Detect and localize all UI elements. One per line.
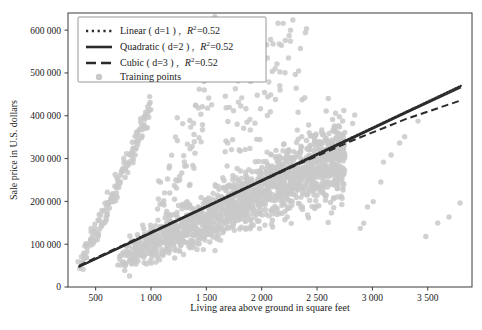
scatter-point — [191, 221, 196, 226]
scatter-point — [388, 152, 393, 157]
y-axis-title: Sale price in U.S. dollars — [8, 100, 19, 200]
scatter-point — [259, 170, 264, 175]
scatter-point — [297, 184, 302, 189]
scatter-point — [298, 148, 303, 153]
scatter-point — [378, 179, 383, 184]
scatter-point — [252, 120, 257, 125]
scatter-point — [331, 196, 336, 201]
scatter-point — [323, 169, 328, 174]
scatter-point — [203, 229, 208, 234]
scatter-point — [281, 142, 286, 147]
legend-r-squared-symbol: R — [184, 57, 191, 68]
scatter-point — [272, 66, 277, 71]
scatter-point — [238, 192, 243, 197]
scatter-point — [147, 94, 152, 99]
legend-r-squared-symbol: R — [199, 41, 206, 52]
scatter-point — [208, 229, 213, 234]
scatter-point — [295, 110, 300, 115]
scatter-point — [274, 61, 279, 66]
scatter-point — [312, 206, 317, 211]
scatter-point — [330, 117, 335, 122]
scatter-point — [257, 137, 262, 142]
scatter-point — [274, 176, 279, 181]
scatter-point — [268, 37, 273, 42]
legend-r-squared-value: =0.52 — [197, 25, 220, 36]
scatter-point — [154, 233, 159, 238]
scatter-point — [183, 222, 188, 227]
scatter-point — [257, 226, 262, 231]
scatter-point — [342, 151, 347, 156]
scatter-point — [285, 149, 290, 154]
scatter-point — [381, 159, 386, 164]
scatter-point — [129, 260, 134, 265]
scatter-point — [242, 147, 247, 152]
scatter-point — [210, 191, 215, 196]
scatter-point — [169, 152, 174, 157]
scatter-point — [189, 243, 194, 248]
scatter-point — [198, 195, 203, 200]
scatter-point — [305, 212, 310, 217]
scatter-point — [185, 141, 190, 146]
scatter-point — [268, 92, 273, 97]
scatter-point — [262, 90, 267, 95]
scatter-point — [273, 148, 278, 153]
scatter-point — [256, 203, 261, 208]
scatter-point — [154, 238, 159, 243]
y-tick-label: 600 000 — [30, 26, 61, 36]
scatter-point — [446, 214, 451, 219]
scatter-point — [191, 121, 196, 126]
legend-circle-point-marker — [96, 74, 102, 80]
scatter-point — [296, 68, 301, 73]
scatter-point — [243, 219, 248, 224]
scatter-point — [352, 112, 357, 117]
scatter-point — [230, 137, 235, 142]
scatter-point — [187, 182, 192, 187]
scatter-point — [326, 96, 331, 101]
scatter-point — [207, 239, 212, 244]
scatter-point — [266, 163, 271, 168]
scatter-point — [148, 250, 153, 255]
scatter-point — [155, 206, 160, 211]
scatter-point — [287, 156, 292, 161]
scatter-point — [336, 135, 341, 140]
scatter-point — [247, 117, 252, 122]
y-tick-label: 300 000 — [30, 154, 61, 164]
scatter-point — [280, 21, 285, 26]
scatter-point — [213, 226, 218, 231]
x-axis-ticks: 5001 0001 5002 0002 5003 0003 500 — [89, 287, 439, 303]
scatter-point — [191, 132, 196, 137]
x-tick-label: 3 000 — [362, 293, 384, 303]
scatter-point — [189, 226, 194, 231]
scatter-point — [219, 212, 224, 217]
scatter-point — [307, 198, 312, 203]
scatter-point — [238, 103, 243, 108]
scatter-point — [144, 238, 149, 243]
scatter-point — [246, 167, 251, 172]
scatter-point — [238, 168, 243, 173]
scatter-point — [288, 28, 293, 33]
legend-item-label: Training points — [120, 71, 181, 82]
x-tick-label: 500 — [89, 293, 104, 303]
x-tick-label: 3 500 — [417, 293, 439, 303]
scatter-point — [218, 238, 223, 243]
scatter-point — [262, 222, 267, 227]
scatter-point — [171, 241, 176, 246]
scatter-point — [335, 181, 340, 186]
scatter-point — [282, 70, 287, 75]
scatter-point — [342, 130, 347, 135]
scatter-point — [220, 175, 225, 180]
scatter-point — [247, 146, 252, 151]
scatter-point — [273, 97, 278, 102]
scatter-point — [258, 196, 263, 201]
scatter-point — [258, 106, 263, 111]
scatter-point — [335, 172, 340, 177]
scatter-point — [335, 166, 340, 171]
scatter-point — [233, 86, 238, 91]
scatter-point — [148, 107, 153, 112]
scatter-point — [192, 215, 197, 220]
scatter-point — [323, 156, 328, 161]
scatter-point — [107, 205, 112, 210]
scatter-point — [133, 146, 138, 151]
scatter-point — [181, 153, 186, 158]
scatter-point — [279, 203, 284, 208]
